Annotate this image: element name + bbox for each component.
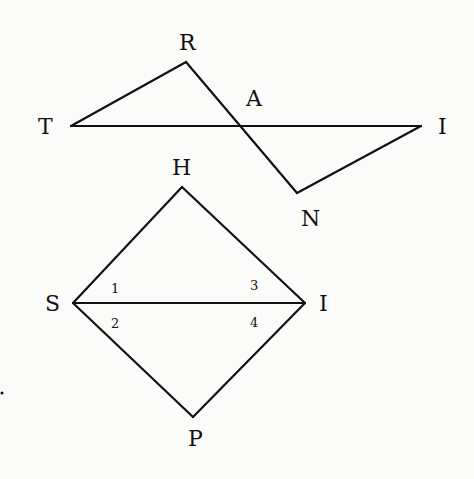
segment-tr (71, 62, 186, 126)
segment-rn (186, 62, 297, 193)
vertex-label-t: T (38, 114, 53, 139)
vertex-label-n: N (301, 206, 320, 231)
segment-sp (73, 303, 193, 417)
vertex-label-h: H (172, 155, 191, 180)
angle-label-2: 2 (111, 316, 119, 331)
segment-pi (193, 303, 305, 417)
vertex-label-a: A (245, 86, 263, 111)
angle-label-4: 4 (250, 315, 258, 330)
vertex-label-s: S (45, 291, 60, 316)
vertex-label-r: R (179, 30, 197, 55)
vertex-label-i: I (438, 114, 447, 139)
angle-label-3: 3 (250, 278, 258, 293)
figure-triangles-tri-ani: TRAIN (38, 30, 447, 231)
angle-label-1: 1 (111, 281, 119, 296)
segment-in (297, 126, 421, 193)
geometry-diagram: TRAIN HSIP1234 (0, 0, 474, 479)
figure-quadrilateral-ship: HSIP1234 (45, 155, 328, 451)
segment-sh (73, 187, 182, 303)
stray-dot (1, 392, 4, 395)
vertex-label-p: P (188, 426, 203, 451)
segment-hi (182, 187, 305, 303)
vertex-label-i: I (319, 291, 328, 316)
